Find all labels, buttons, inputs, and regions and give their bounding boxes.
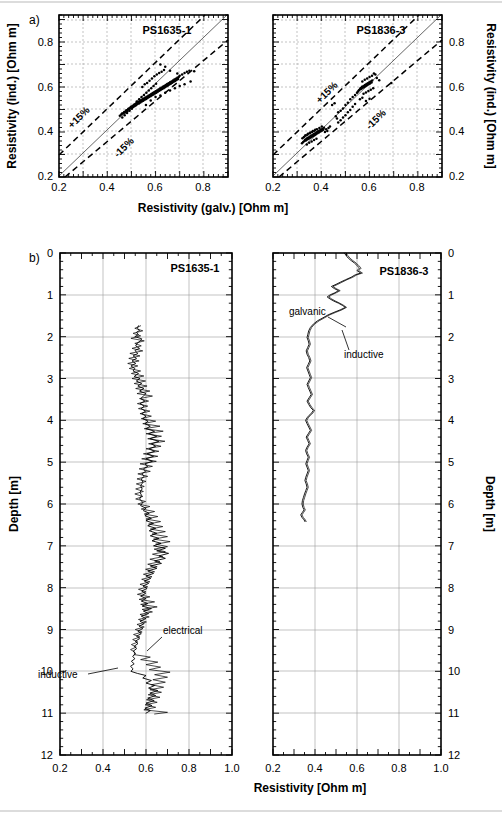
depth-curve-inductive-ps1836-3 bbox=[302, 253, 362, 522]
scatter-point bbox=[308, 142, 311, 145]
x-tick-label: 0.4 bbox=[99, 181, 114, 193]
y-tick-label: 9 bbox=[47, 624, 53, 636]
panel-a-label: a) bbox=[29, 13, 40, 27]
scatter-point bbox=[169, 70, 172, 73]
scatter-point bbox=[311, 131, 314, 134]
x-tick-label: 1.0 bbox=[433, 762, 448, 774]
scatter-point bbox=[366, 77, 369, 80]
scatter-point bbox=[176, 72, 179, 75]
scatter-point bbox=[313, 129, 316, 132]
y-tick-label: 0.6 bbox=[449, 81, 464, 93]
scatter-point bbox=[347, 111, 350, 114]
scatter-point bbox=[150, 87, 153, 90]
minus15-line-right-scatter bbox=[279, 40, 442, 177]
y-tick-label: 1 bbox=[47, 289, 53, 301]
y-tick-label: 0.2 bbox=[38, 170, 53, 182]
x-tick-label: 0.4 bbox=[95, 762, 110, 774]
scatter-point bbox=[344, 104, 347, 107]
scatter-point bbox=[361, 97, 364, 100]
scatter-point bbox=[324, 131, 327, 134]
minus15-label-right-scatter: -15% bbox=[364, 107, 388, 131]
y-tick-label: 7 bbox=[448, 540, 454, 552]
scatter-point bbox=[337, 121, 340, 124]
scatter-point bbox=[365, 91, 368, 94]
y-tick-label: 1 bbox=[448, 289, 454, 301]
y-axis-title-b-right: Depth [m] bbox=[483, 476, 497, 532]
y-tick-label: 8 bbox=[47, 582, 53, 594]
x-tick-label: 0.8 bbox=[409, 181, 424, 193]
scatter-point bbox=[138, 98, 141, 101]
scatter-point bbox=[160, 70, 163, 73]
scatter-point bbox=[169, 89, 172, 92]
scatter-point bbox=[313, 139, 316, 142]
scatter-point bbox=[183, 83, 186, 86]
plus15-line-right-scatter bbox=[273, 15, 419, 155]
plot-frame-ps1836-3 bbox=[273, 15, 442, 177]
scatter-point bbox=[143, 94, 146, 97]
scatter-point bbox=[315, 138, 318, 141]
scatter-point bbox=[339, 119, 342, 122]
scatter-plot-ps1836-3: +15% -15% PS1836-3 0.2 0.4 0.6 0.8 0.2 0… bbox=[265, 14, 498, 193]
scatter-point bbox=[344, 114, 347, 117]
y-tick-label: 5 bbox=[47, 456, 53, 468]
y-tick-label: 3 bbox=[448, 373, 454, 385]
scatter-point bbox=[354, 94, 357, 97]
scatter-point bbox=[371, 79, 374, 82]
scatter-point bbox=[367, 90, 370, 93]
scatter-point bbox=[359, 98, 362, 101]
scatter-point bbox=[152, 85, 155, 88]
scatter-point bbox=[177, 78, 180, 81]
scatter-point bbox=[178, 75, 181, 78]
scatter-point bbox=[148, 89, 151, 92]
y-tick-label: 10 bbox=[448, 665, 460, 677]
scatter-point bbox=[121, 116, 124, 119]
plot-title-b-ps1635-1: PS1635-1 bbox=[171, 262, 220, 274]
x-tick-label: 0.4 bbox=[307, 762, 322, 774]
y-tick-label: 0.4 bbox=[449, 125, 464, 137]
scatter-point bbox=[349, 109, 352, 112]
axis-ticks-ps1836-3 bbox=[273, 15, 442, 177]
scatter-point bbox=[163, 69, 166, 72]
y-tick-label: 2 bbox=[448, 331, 454, 343]
x-axis-title-panel-a: Resistivity (galv.) [Ohm m] bbox=[138, 201, 288, 215]
scatter-point bbox=[306, 143, 309, 146]
scatter-point bbox=[126, 112, 129, 115]
y-tick-label: 5 bbox=[448, 456, 454, 468]
scatter-point bbox=[145, 91, 148, 94]
y-tick-label: 11 bbox=[42, 707, 53, 719]
scatter-point bbox=[308, 132, 311, 135]
scatter-point bbox=[140, 96, 143, 99]
y-tick-label: 0.2 bbox=[449, 170, 464, 182]
x-tick-label: 0.6 bbox=[138, 762, 153, 774]
y-tick-label: 0 bbox=[448, 247, 454, 259]
scatter-point bbox=[326, 130, 329, 133]
y-tick-labels-b-left: 0123456789101112 bbox=[41, 247, 53, 761]
y-tick-labels-b-right: 0123456789101112 bbox=[448, 247, 460, 761]
scatter-point bbox=[368, 97, 371, 100]
scatter-point bbox=[316, 128, 319, 131]
scatter-point bbox=[361, 80, 364, 83]
scatter-point bbox=[321, 125, 324, 128]
grid-lines-left-depth bbox=[60, 253, 232, 755]
scatter-point bbox=[339, 109, 342, 112]
scatter-point bbox=[333, 102, 336, 105]
grid-lines-right-scatter bbox=[273, 15, 442, 177]
panel-a: a) bbox=[5, 13, 498, 215]
y-tick-label: 4 bbox=[448, 414, 454, 426]
scatter-point bbox=[323, 126, 326, 129]
x-tick-label: 0.6 bbox=[147, 181, 162, 193]
scatter-point bbox=[128, 109, 131, 112]
scatter-point bbox=[149, 99, 152, 102]
scatter-point bbox=[376, 77, 379, 80]
leader-inductive-right bbox=[342, 330, 349, 350]
scatter-point bbox=[331, 104, 334, 107]
scatter-point bbox=[351, 96, 354, 99]
depth-log-ps1836-3: PS1836-3 galvanic inductive 012345678910… bbox=[265, 247, 497, 774]
scatter-point bbox=[351, 106, 354, 109]
y-axis-title-panel-a: Resistivity (ind.) [Ohm m] bbox=[5, 23, 19, 168]
panel-b: b) bbox=[7, 247, 497, 795]
scatter-point bbox=[183, 72, 186, 75]
scatter-point bbox=[174, 87, 177, 90]
scatter-point bbox=[156, 73, 159, 76]
scatter-point bbox=[371, 75, 374, 78]
